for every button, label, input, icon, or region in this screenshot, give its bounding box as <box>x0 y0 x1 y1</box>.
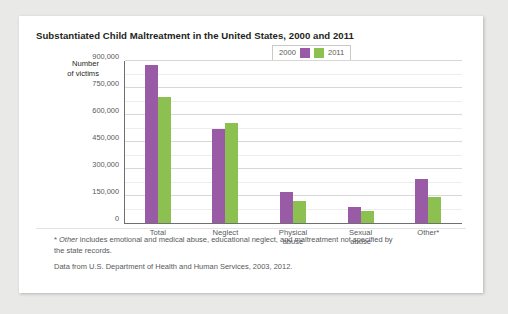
bar-2000 <box>145 65 158 223</box>
bar-2011 <box>361 211 374 223</box>
page-title: Substantiated Child Maltreatment in the … <box>36 30 354 41</box>
legend-swatch-2011-icon <box>314 48 324 58</box>
footnote-asterisk: * <box>54 235 57 244</box>
footnote-body: includes emotional and medical abuse, ed… <box>54 235 393 255</box>
bar-group: Total <box>124 61 192 223</box>
chart-card: Substantiated Child Maltreatment in the … <box>19 16 483 293</box>
bar-pair <box>280 61 306 223</box>
chart-legend: 2000 2011 <box>272 45 351 61</box>
y-axis-tick-label: 0 <box>115 213 119 222</box>
y-axis-tick-label: 150,000 <box>92 186 119 195</box>
screenshot-root: Substantiated Child Maltreatment in the … <box>0 0 508 314</box>
y-axis-caption-line1: Number <box>72 59 99 68</box>
y-axis-tick-label: 450,000 <box>92 132 119 141</box>
y-axis-tick-label: 300,000 <box>92 159 119 168</box>
y-axis-tick-label: 900,000 <box>92 51 119 60</box>
y-axis-caption-line2: of victims <box>67 69 99 78</box>
legend-label-2000: 2000 <box>279 49 296 57</box>
bar-2011 <box>428 197 441 223</box>
x-axis-tick-label: Other* <box>393 228 463 237</box>
footnote-source: Data from U.S. Department of Health and … <box>54 262 434 273</box>
bar-2000 <box>348 207 361 223</box>
bar-pair <box>145 61 171 223</box>
bar-2011 <box>158 97 171 223</box>
bar-2000 <box>415 179 428 223</box>
bar-group: Sexualabuse <box>327 61 395 223</box>
x-axis-line <box>124 223 462 224</box>
bar-2011 <box>225 123 238 223</box>
bar-pair <box>212 61 238 223</box>
footnote-divider <box>36 228 466 229</box>
bar-2000 <box>280 192 293 223</box>
bar-group: Other* <box>394 61 462 223</box>
bar-group: Physicalabuse <box>259 61 327 223</box>
legend-swatch-2000-icon <box>300 48 310 58</box>
footnote-italic-term: Other <box>59 235 78 244</box>
bar-pair <box>348 61 374 223</box>
y-axis-tick-label: 600,000 <box>92 105 119 114</box>
bar-2000 <box>212 129 225 223</box>
bar-2011 <box>293 201 306 224</box>
plot-area: 0150,000300,000450,000600,000750,000900,… <box>124 61 462 224</box>
footnote-note: * Other includes emotional and medical a… <box>54 235 394 256</box>
legend-label-2011: 2011 <box>328 49 344 57</box>
bar-group: Neglect <box>192 61 260 223</box>
bar-pair <box>415 61 441 223</box>
y-axis-caption: Number of victims <box>47 59 99 78</box>
x-axis-tick-label-line: Other* <box>417 228 439 237</box>
y-axis-tick-label: 750,000 <box>92 78 119 87</box>
